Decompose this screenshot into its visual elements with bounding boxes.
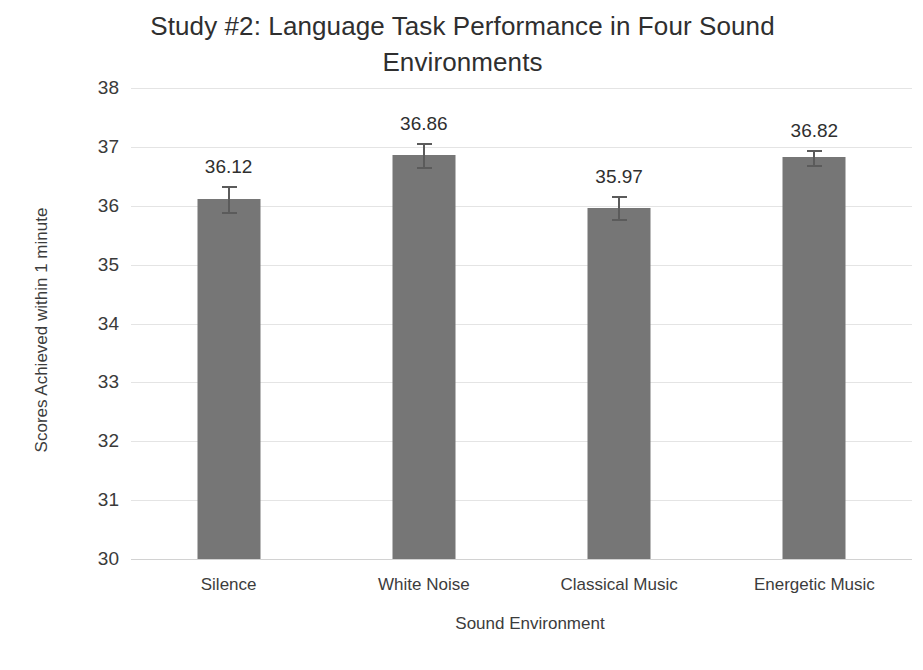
y-axis-tick-label: 38: [98, 77, 119, 99]
x-axis-category-label: Energetic Music: [754, 575, 875, 595]
error-bar-cap-lower: [807, 165, 822, 167]
chart-title-line-2: Environments: [105, 44, 820, 80]
y-axis-tick-label: 33: [98, 371, 119, 393]
error-bar-cap-lower: [222, 212, 237, 214]
bar[interactable]: [392, 155, 455, 559]
error-bar-line: [813, 150, 815, 164]
bar-chart: Study #2: Language Task Performance in F…: [0, 0, 923, 670]
bar-value-label: 36.12: [205, 156, 253, 178]
bar-group[interactable]: 35.97Classical Music: [522, 88, 717, 559]
gridline: [131, 559, 912, 560]
bar[interactable]: [783, 157, 846, 559]
y-axis-title: Scores Achieved within 1 minute: [32, 120, 52, 540]
bar-value-label: 36.86: [400, 113, 448, 135]
bar[interactable]: [197, 199, 260, 559]
bar-group[interactable]: 36.12Silence: [131, 88, 326, 559]
chart-title-line-1: Study #2: Language Task Performance in F…: [105, 8, 820, 44]
bar-group[interactable]: 36.82Energetic Music: [717, 88, 912, 559]
y-axis-tick-label: 37: [98, 136, 119, 158]
y-axis-tick-label: 34: [98, 313, 119, 335]
bar[interactable]: [588, 208, 651, 559]
error-bar-cap-lower: [417, 167, 432, 169]
y-axis-tick-label: 32: [98, 430, 119, 452]
error-bar-cap-upper: [807, 150, 822, 152]
y-axis-tick-label: 35: [98, 254, 119, 276]
plot-area: 38373635343332313036.12Silence36.86White…: [131, 88, 912, 559]
bar-group[interactable]: 36.86White Noise: [326, 88, 521, 559]
x-axis-title: Sound Environment: [130, 614, 923, 634]
x-axis-category-label: White Noise: [378, 575, 470, 595]
error-bar-line: [618, 196, 620, 220]
error-bar-cap-upper: [417, 143, 432, 145]
chart-title: Study #2: Language Task Performance in F…: [105, 8, 820, 80]
x-axis-category-label: Silence: [201, 575, 257, 595]
error-bar-line: [423, 143, 425, 167]
error-bar-cap-upper: [222, 186, 237, 188]
error-bar-cap-lower: [612, 219, 627, 221]
bar-value-label: 35.97: [595, 166, 643, 188]
y-axis-tick-label: 31: [98, 489, 119, 511]
y-axis-tick-label: 36: [98, 195, 119, 217]
error-bar-cap-upper: [612, 196, 627, 198]
bar-value-label: 36.82: [791, 120, 839, 142]
error-bar-line: [228, 186, 230, 212]
y-axis-tick-label: 30: [98, 548, 119, 570]
x-axis-category-label: Classical Music: [561, 575, 678, 595]
